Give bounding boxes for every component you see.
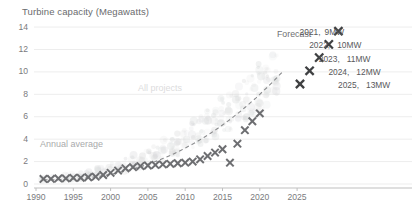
forecast-value: 12MW bbox=[356, 67, 380, 77]
all-projects-cloud bbox=[38, 51, 281, 183]
chart-container: Turbine capacity (Megawatts) 02468101214… bbox=[0, 0, 419, 221]
x-axis-tick-2000: 2000 bbox=[91, 192, 131, 202]
x-axis-tick-2005: 2005 bbox=[128, 192, 168, 202]
forecast-year: 2024, bbox=[328, 67, 349, 77]
forecast-year: 2021, bbox=[300, 27, 321, 37]
forecast-value: 9MW bbox=[325, 27, 345, 37]
all-projects-label: All projects bbox=[138, 83, 182, 93]
x-axis-tick-2025: 2025 bbox=[277, 192, 317, 202]
annual-average-label: Annual average bbox=[40, 139, 103, 149]
forecast-annotation-2023: 2023,11MW bbox=[319, 54, 371, 64]
y-axis-tick-14: 14 bbox=[6, 22, 28, 32]
forecast-value: 13MW bbox=[366, 80, 390, 90]
forecast-annotation-2025: 2025,13MW bbox=[338, 80, 390, 90]
axis-lines bbox=[34, 188, 412, 191]
y-axis-tick-12: 12 bbox=[6, 44, 28, 54]
gridlines bbox=[34, 27, 412, 184]
y-axis-tick-2: 2 bbox=[6, 156, 28, 166]
y-axis-tick-4: 4 bbox=[6, 134, 28, 144]
forecast-annotation-2022: 2022,10MW bbox=[309, 40, 361, 50]
y-axis-tick-0: 0 bbox=[6, 179, 28, 189]
x-axis-tick-1995: 1995 bbox=[53, 192, 93, 202]
x-axis-tick-2015: 2015 bbox=[203, 192, 243, 202]
forecast-year: 2023, bbox=[319, 54, 340, 64]
x-axis-tick-1990: 1990 bbox=[16, 192, 56, 202]
forecast-value: 10MW bbox=[337, 40, 361, 50]
chart-plot-area bbox=[0, 0, 419, 221]
forecast-annotation-2024: 2024,12MW bbox=[328, 67, 380, 77]
forecast-annotation-2021: 2021,9MW bbox=[300, 27, 345, 37]
x-axis-tick-2010: 2010 bbox=[165, 192, 205, 202]
forecast-year: 2025, bbox=[338, 80, 359, 90]
y-axis-tick-8: 8 bbox=[6, 89, 28, 99]
x-axis-tick-2020: 2020 bbox=[240, 192, 280, 202]
y-axis-tick-6: 6 bbox=[6, 111, 28, 121]
forecast-year: 2022, bbox=[309, 40, 330, 50]
forecast-value: 11MW bbox=[347, 54, 371, 64]
y-axis-tick-10: 10 bbox=[6, 66, 28, 76]
